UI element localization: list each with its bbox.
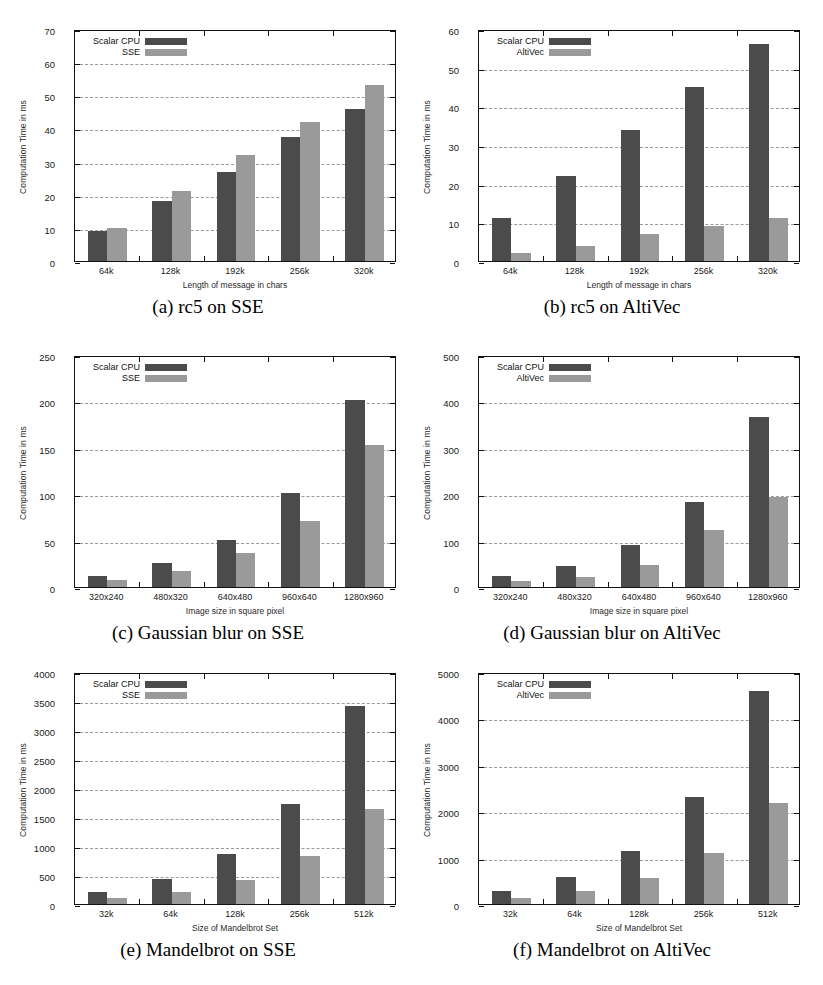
legend-item: SSE	[93, 690, 187, 701]
chart-panel-b: Computation Time in ms64k128k192k256k320…	[412, 12, 812, 340]
y-tick-label: 1000	[0, 843, 55, 854]
bar-e-3-1	[300, 856, 319, 904]
bar-c-3-0	[281, 493, 300, 587]
x-tick-label: 64k	[475, 266, 545, 276]
y-axis-label: Computation Time in ms	[16, 358, 30, 588]
y-tick-label: 30	[399, 142, 459, 153]
y-tick-mark	[75, 64, 80, 65]
chart-legend: Scalar CPUSSE	[93, 362, 187, 384]
gridline	[479, 403, 799, 404]
y-tick-mark	[75, 230, 80, 231]
x-tick-mark	[268, 256, 269, 261]
bar-f-2-0	[621, 851, 640, 904]
y-tick-mark	[390, 819, 395, 820]
x-tick-label: 64k	[540, 909, 610, 919]
y-tick-mark	[390, 543, 395, 544]
plot-area: 010002000300040005000Scalar CPUAltiVec	[478, 673, 800, 905]
x-tick-label: 512k	[329, 909, 399, 919]
bar-b-2-1	[640, 234, 659, 261]
y-tick-label: 60	[399, 26, 459, 37]
legend-label: AltiVec	[517, 373, 550, 384]
y-tick-label: 200	[399, 491, 459, 502]
y-tick-mark	[479, 813, 484, 814]
bar-e-0-1	[107, 898, 126, 904]
x-tick-label: 1280x960	[329, 592, 399, 602]
x-tick-mark	[672, 31, 673, 36]
y-tick-mark	[75, 732, 80, 733]
legend-item: AltiVec	[497, 47, 591, 58]
x-tick-label: 32k	[475, 909, 545, 919]
panel-caption-d: (d) Gaussian blur on AltiVec	[412, 622, 812, 644]
y-tick-mark	[390, 496, 395, 497]
bar-b-3-1	[704, 226, 723, 261]
y-tick-label: 2000	[399, 808, 459, 819]
legend-label: SSE	[122, 47, 145, 58]
bar-e-1-1	[172, 892, 191, 904]
chart-legend: Scalar CPUAltiVec	[497, 36, 591, 58]
y-axis-label: Computation Time in ms	[420, 358, 434, 588]
legend-item: Scalar CPU	[497, 362, 591, 373]
y-tick-label: 0	[0, 584, 55, 595]
x-tick-label: 256k	[668, 266, 738, 276]
y-tick-mark	[479, 403, 484, 404]
y-tick-mark	[794, 147, 799, 148]
y-tick-label: 50	[0, 537, 55, 548]
y-tick-mark	[75, 790, 80, 791]
x-tick-label: 128k	[540, 266, 610, 276]
legend-swatch	[145, 364, 187, 371]
bar-e-4-1	[365, 809, 384, 904]
y-tick-label: 40	[0, 125, 55, 136]
chart-area-b: Computation Time in ms64k128k192k256k320…	[412, 12, 812, 294]
y-tick-mark	[390, 906, 395, 907]
x-axis-label: Image size in square pixel	[478, 606, 800, 616]
y-tick-mark	[479, 767, 484, 768]
y-tick-label: 3000	[0, 727, 55, 738]
legend-item: SSE	[93, 373, 187, 384]
y-tick-mark	[479, 263, 484, 264]
x-tick-mark	[268, 31, 269, 36]
bar-a-1-0	[152, 201, 171, 261]
legend-label: Scalar CPU	[93, 362, 145, 373]
x-tick-label: 256k	[264, 266, 334, 276]
y-tick-mark	[479, 31, 484, 32]
y-tick-mark	[794, 357, 799, 358]
x-tick-mark	[737, 674, 738, 679]
y-tick-label: 100	[399, 537, 459, 548]
y-tick-label: 500	[399, 352, 459, 363]
y-tick-mark	[794, 403, 799, 404]
x-tick-label: 192k	[604, 266, 674, 276]
legend-label: Scalar CPU	[497, 362, 549, 373]
bar-f-0-0	[492, 891, 511, 904]
y-tick-label: 70	[0, 26, 55, 37]
bar-d-2-1	[640, 565, 659, 587]
bar-e-1-0	[152, 879, 171, 904]
y-tick-mark	[390, 97, 395, 98]
y-tick-mark	[794, 108, 799, 109]
x-tick-label: 64k	[71, 266, 141, 276]
legend-swatch	[549, 681, 591, 688]
y-tick-mark	[479, 496, 484, 497]
y-tick-label: 20	[399, 180, 459, 191]
x-tick-label: 320k	[733, 266, 803, 276]
legend-item: AltiVec	[497, 373, 591, 384]
y-tick-label: 250	[0, 352, 55, 363]
y-tick-mark	[390, 164, 395, 165]
x-tick-mark	[608, 256, 609, 261]
bar-e-0-0	[88, 892, 107, 904]
y-tick-mark	[479, 70, 484, 71]
y-tick-mark	[794, 543, 799, 544]
bar-a-3-1	[300, 122, 319, 261]
gridline	[75, 64, 395, 65]
y-tick-mark	[794, 906, 799, 907]
y-tick-mark	[390, 230, 395, 231]
x-tick-mark	[672, 256, 673, 261]
x-tick-mark	[204, 31, 205, 36]
x-tick-mark	[139, 582, 140, 587]
y-tick-label: 2500	[0, 756, 55, 767]
chart-panel-e: Computation Time in ms32k64k128k256k512k…	[8, 655, 408, 983]
x-tick-label: 32k	[71, 909, 141, 919]
x-tick-mark	[204, 256, 205, 261]
y-tick-mark	[390, 848, 395, 849]
bar-f-3-0	[685, 797, 704, 904]
y-tick-mark	[75, 848, 80, 849]
